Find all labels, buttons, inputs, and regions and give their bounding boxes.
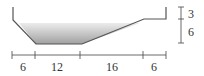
dim-label-6-left: 6 [20,60,26,74]
dim-label-3: 3 [188,7,194,21]
water-fill [19,23,140,44]
dim-label-6-vertical: 6 [188,25,194,39]
dim-label-12: 12 [51,60,63,74]
dim-label-16: 16 [106,60,118,74]
vertical-dimension [178,7,184,43]
horizontal-dimension [12,51,166,59]
channel-diagram: 3 6 6 12 16 6 [0,0,204,76]
dim-label-6-right: 6 [151,60,157,74]
